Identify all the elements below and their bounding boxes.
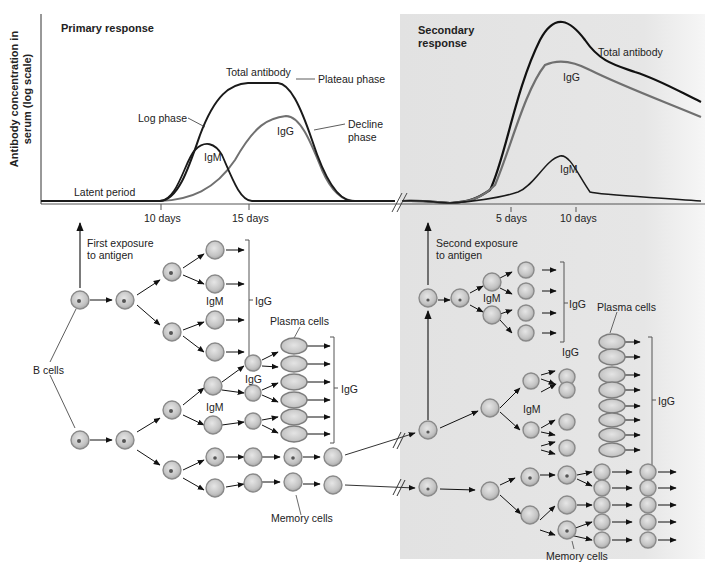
tick-10-days-secondary: 10 days [560,212,597,224]
plateau-phase-label: Plateau phase [318,73,385,85]
immune-response-diagram: Antibody concentration in serum (log sca… [0,0,719,573]
tick-10-days: 10 days [144,212,181,224]
igg-label-a: IgG [255,295,272,307]
secondary-title-line1: Secondary [418,24,474,36]
igg-label-b: IgG [245,373,262,385]
round-cells [71,241,656,548]
secondary-total-antibody-label: Total antibody [598,46,663,58]
first-exposure-label: First exposure [87,237,154,249]
primary-igg-label: IgG [277,125,294,137]
igm-label-a: IgM [206,295,224,307]
secondary-igg-label: IgG [563,71,580,83]
y-axis-label: Antibody concentration in serum (log sca… [8,24,34,174]
primary-total-antibody-label: Total antibody [226,66,291,78]
plasma-cells-label-a: Plasma cells [270,315,329,327]
igm-label-b: IgM [206,401,224,413]
igg-label-f: IgG [658,395,675,407]
primary-total-curve [41,83,395,201]
memory-cells-label-b: Memory cells [546,550,608,562]
b-cells-label: B cells [33,364,64,376]
secondary-igm-label: IgM [560,163,578,175]
to-antigen-label: to antigen [87,249,133,261]
diagram-graphics [0,0,719,573]
tick-15-days: 15 days [232,212,269,224]
igg-label-e: IgG [562,346,579,358]
igg-label-d: IgG [569,298,586,310]
primary-igm-label: IgM [204,151,222,163]
to-antigen-label-2: to antigen [436,249,482,261]
primary-igm-curve [160,144,395,201]
memory-cells-label-a: Memory cells [271,512,333,524]
second-exposure-label: Second exposure [436,237,518,249]
secondary-igm-curve [402,156,701,203]
secondary-title-line2: response [418,37,467,49]
plasma-cells-label-b: Plasma cells [597,301,656,313]
igg-label-c: IgG [341,383,358,395]
primary-response-title: Primary response [61,22,154,34]
timegap-lines [345,432,415,496]
phase-label: phase [348,131,377,143]
tick-5-days: 5 days [496,212,527,224]
log-phase-label: Log phase [138,112,187,124]
igm-label-d: IgM [523,403,541,415]
igm-label-c: IgM [483,292,501,304]
latent-period-label: Latent period [74,186,135,198]
primary-curves [41,83,395,201]
secondary-igg-curve [402,61,701,203]
decline-label: Decline [348,118,383,130]
